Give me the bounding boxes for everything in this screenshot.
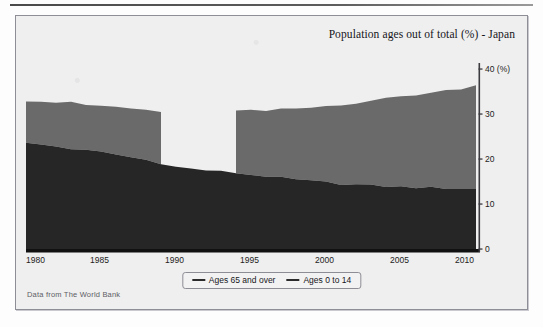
x-axis-tick-label: 1980 [26, 255, 45, 265]
figure-panel: Population ages out of total (%) - Japan… [15, 15, 528, 310]
legend-label: Ages 65 and over [209, 275, 276, 285]
x-axis-tick-label: 1985 [90, 255, 109, 265]
chart-legend: Ages 65 and over Ages 0 to 14 [182, 272, 361, 289]
legend-item-ages-65-and-over: Ages 65 and over [192, 275, 276, 285]
stacked-area-chart [16, 16, 529, 311]
x-axis-tick-label: 1995 [240, 255, 259, 265]
x-axis-tick-label: 2005 [390, 255, 409, 265]
x-axis-tick-label: 2000 [315, 255, 334, 265]
legend-label: Ages 0 to 14 [303, 275, 351, 285]
legend-line-icon [286, 279, 299, 281]
y-axis-tick-label: 20 [485, 154, 494, 164]
x-axis-tick-label: 2010 [455, 255, 474, 265]
legend-line-icon [192, 279, 205, 281]
y-axis-tick-label: 0 [485, 244, 490, 254]
x-axis-tick-label: 1990 [165, 255, 184, 265]
y-axis-tick-label: 30 [485, 109, 494, 119]
legend-item-ages-0-to-14: Ages 0 to 14 [286, 275, 351, 285]
plot-area: 010203040 (%) 19801985199019952000200520… [16, 16, 529, 311]
page-top-rule [10, 4, 533, 6]
y-axis-tick-label: 40 (%) [485, 64, 510, 74]
source-note: Data from The World Bank [27, 290, 120, 299]
scanned-page: Population ages out of total (%) - Japan… [0, 0, 543, 327]
y-axis-tick-label: 10 [485, 199, 494, 209]
